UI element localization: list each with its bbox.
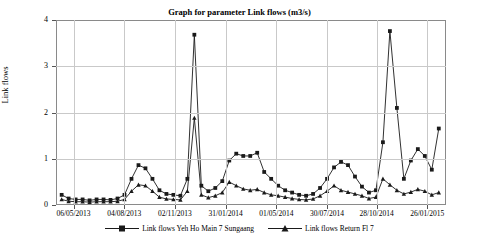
data-point-square	[206, 189, 210, 193]
data-point-triangle	[262, 190, 266, 194]
gridline-horizontal	[56, 66, 446, 67]
data-point-square	[144, 166, 148, 170]
legend-label-0: Link flows Yeh Ho Main 7 Sungaang	[142, 224, 254, 233]
x-tick-label: 30/07/2014	[299, 209, 355, 218]
legend-marker-triangle-icon	[268, 224, 302, 233]
data-point-square	[367, 191, 371, 195]
y-tick-label: 0	[28, 200, 48, 209]
data-point-square	[353, 175, 357, 179]
data-point-triangle	[185, 189, 189, 193]
chart-legend: Link flows Yeh Ho Main 7 Sungaang Link f…	[0, 224, 479, 233]
gridline-vertical	[175, 20, 176, 205]
gridline-vertical	[327, 20, 328, 205]
x-tick-label: 31/01/2014	[198, 209, 254, 218]
data-point-square	[346, 163, 350, 167]
data-point-triangle	[199, 193, 203, 197]
data-point-square	[151, 177, 155, 181]
data-point-square	[416, 147, 420, 151]
y-tick-label: 1	[28, 154, 48, 163]
y-tick-mark	[52, 66, 56, 67]
data-point-square	[269, 177, 273, 181]
legend-marker-square-icon	[105, 224, 139, 233]
gridline-vertical	[377, 20, 378, 205]
data-point-square	[262, 170, 266, 174]
data-point-triangle	[192, 116, 196, 120]
data-point-square	[304, 194, 308, 198]
y-tick-mark	[52, 20, 56, 21]
y-tick-label: 2	[28, 108, 48, 117]
gridline-vertical	[276, 20, 277, 205]
data-point-square	[130, 177, 134, 181]
x-tick-label: 06/05/2013	[46, 209, 102, 218]
data-point-square	[311, 192, 315, 196]
data-point-square	[234, 152, 238, 156]
data-point-square	[158, 188, 162, 192]
data-point-triangle	[213, 193, 217, 197]
gridline-vertical	[124, 20, 125, 205]
y-tick-label: 3	[28, 61, 48, 70]
data-point-square	[283, 188, 287, 192]
x-tick-label: 28/10/2014	[349, 209, 405, 218]
legend-item-1: Link flows Return Fl 7	[268, 224, 374, 233]
gridline-vertical	[226, 20, 227, 205]
data-point-square	[339, 160, 343, 164]
data-point-square	[290, 191, 294, 195]
data-point-square	[137, 163, 141, 167]
y-tick-mark	[52, 205, 56, 206]
chart-title: Graph for parameter Link flows (m3/s)	[0, 7, 479, 17]
data-point-triangle	[437, 190, 441, 194]
gridline-vertical	[74, 20, 75, 205]
data-point-square	[332, 166, 336, 170]
data-point-triangle	[234, 183, 238, 187]
data-point-square	[165, 192, 169, 196]
legend-item-0: Link flows Yeh Ho Main 7 Sungaang	[105, 224, 254, 233]
y-tick-mark	[52, 159, 56, 160]
legend-label-1: Link flows Return Fl 7	[305, 224, 374, 233]
data-point-square	[395, 106, 399, 110]
data-point-triangle	[59, 197, 63, 201]
y-tick-mark	[52, 113, 56, 114]
gridline-horizontal	[56, 159, 446, 160]
data-point-square	[213, 186, 217, 190]
data-point-triangle	[227, 180, 231, 184]
gridline-vertical	[427, 20, 428, 205]
data-point-square	[248, 154, 252, 158]
data-point-triangle	[318, 193, 322, 197]
gridline-horizontal	[56, 113, 446, 114]
data-point-triangle	[332, 183, 336, 187]
x-tick-label: 01/05/2014	[248, 209, 304, 218]
y-axis-title: Link flows	[0, 66, 10, 103]
x-tick-label: 26/01/2015	[399, 209, 455, 218]
data-point-square	[60, 193, 64, 197]
data-point-square	[423, 154, 427, 158]
chart-container: Graph for parameter Link flows (m3/s) 01…	[0, 0, 479, 244]
data-point-square	[178, 194, 182, 198]
series-line-0	[62, 31, 439, 200]
data-point-triangle	[416, 187, 420, 191]
data-point-square	[430, 168, 434, 172]
data-point-square	[437, 127, 441, 131]
data-point-square	[255, 151, 259, 155]
data-point-square	[192, 33, 196, 37]
data-point-square	[241, 154, 245, 158]
x-tick-label: 02/11/2013	[147, 209, 203, 218]
data-point-square	[381, 140, 385, 144]
data-point-square	[220, 179, 224, 183]
data-point-square	[318, 186, 322, 190]
y-tick-label: 4	[28, 15, 48, 24]
data-point-triangle	[339, 188, 343, 192]
data-point-square	[402, 177, 406, 181]
x-tick-label: 04/08/2013	[96, 209, 152, 218]
data-point-square	[388, 29, 392, 33]
data-point-square	[360, 185, 364, 189]
data-point-square	[297, 193, 301, 197]
data-point-triangle	[381, 177, 385, 181]
data-point-triangle	[241, 187, 245, 191]
